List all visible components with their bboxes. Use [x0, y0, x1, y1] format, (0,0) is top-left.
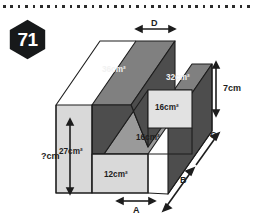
face-label-27: 27cm²	[59, 148, 83, 156]
arrow-7cm	[213, 62, 219, 116]
dimension-label-unknown: ?cm	[41, 152, 60, 161]
dimension-label-d: D	[151, 19, 158, 28]
dimension-label-c: C	[210, 131, 217, 140]
arrow-a	[117, 198, 155, 204]
face-label-16-tread: 16cm²	[136, 134, 160, 142]
stepped-solid-figure: 36cm² 32cm² 16cm² 16cm² 27cm² 12cm² D 7c…	[0, 0, 255, 222]
page-root: 71	[0, 0, 255, 222]
face-label-32: 32cm²	[166, 74, 190, 82]
dimension-label-b: B	[180, 176, 187, 185]
face-label-16-riser: 16cm²	[155, 104, 179, 112]
face-label-36: 36cm²	[102, 66, 126, 74]
face-label-12: 12cm²	[104, 171, 128, 179]
dimension-label-a: A	[133, 206, 140, 215]
dimension-label-7cm: 7cm	[223, 84, 241, 93]
